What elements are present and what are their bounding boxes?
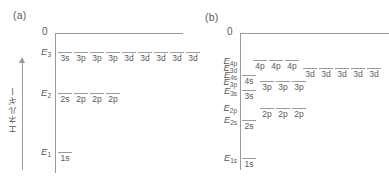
panel-a-level-label-E1: E1 [31, 146, 51, 157]
panel-b-level-label-E2p: E2p [209, 102, 237, 113]
panel-b-zero-line [240, 33, 389, 34]
orbital-caption: 3d [170, 53, 184, 63]
orbital-caption: 2p [292, 109, 306, 119]
panel-a-level-label-E3: E3 [31, 46, 51, 57]
orbital-caption: 3p [292, 82, 306, 92]
orbital-caption: 2p [106, 94, 120, 104]
orbital-caption: 4p [253, 61, 267, 71]
panel-b-level-label-E3s: E3s [209, 85, 237, 96]
energy-axis-arrow [22, 62, 23, 170]
panel-a-level-label-E2: E2 [31, 87, 51, 98]
orbital-caption: 3p [74, 53, 88, 63]
panel-a: (a) エネルギー 0 E3 3s 3p 3p 3p 3d 3d 3d 3d 3… [0, 0, 195, 191]
orbital-caption: 3d [154, 53, 168, 63]
panel-b-axis-spine [240, 33, 241, 170]
orbital-caption: 3p [260, 82, 274, 92]
orbital-caption: 4s [242, 76, 256, 86]
panel-a-zero-line [55, 33, 183, 34]
orbital-caption: 2p [276, 109, 290, 119]
orbital-caption: 4p [269, 61, 283, 71]
panel-b-zero-label: 0 [227, 26, 233, 37]
orbital-caption: 3s [242, 91, 256, 101]
panel-b-level-label-E2s: E2s [209, 114, 237, 125]
up-arrow-icon [19, 57, 25, 63]
orbital-caption: 3p [106, 53, 120, 63]
energy-level-figure: (a) エネルギー 0 E3 3s 3p 3p 3p 3d 3d 3d 3d 3… [0, 0, 389, 191]
orbital-caption: 4p [285, 61, 299, 71]
panel-b-label: (b) [205, 11, 218, 23]
orbital-caption: 1s [242, 159, 256, 169]
orbital-caption: 3d [367, 69, 381, 79]
orbital-caption: 3d [335, 69, 349, 79]
panel-b: (b) 0 E4p E3d E4s E3p E3s E2p E2s E1s 4p… [195, 0, 389, 191]
orbital-caption: 2p [260, 109, 274, 119]
orbital-caption: 3d [319, 69, 333, 79]
energy-axis-caption: エネルギー [8, 86, 17, 134]
orbital-caption: 3d [303, 69, 317, 79]
orbital-caption: 3p [276, 82, 290, 92]
orbital-caption: 3d [122, 53, 136, 63]
orbital-caption: 3d [351, 69, 365, 79]
orbital-caption: 3d [138, 53, 152, 63]
panel-a-label: (a) [13, 9, 26, 21]
orbital-caption: 3p [90, 53, 104, 63]
orbital-caption: 1s [58, 153, 72, 163]
panel-a-axis-spine [55, 33, 56, 173]
panel-b-level-label-E1s: E1s [209, 152, 237, 163]
orbital-caption: 2p [90, 94, 104, 104]
orbital-caption: 2s [58, 94, 72, 104]
orbital-caption: 3s [58, 53, 72, 63]
panel-a-zero-label: 0 [42, 26, 48, 37]
orbital-caption: 2p [74, 94, 88, 104]
orbital-caption: 2s [242, 121, 256, 131]
